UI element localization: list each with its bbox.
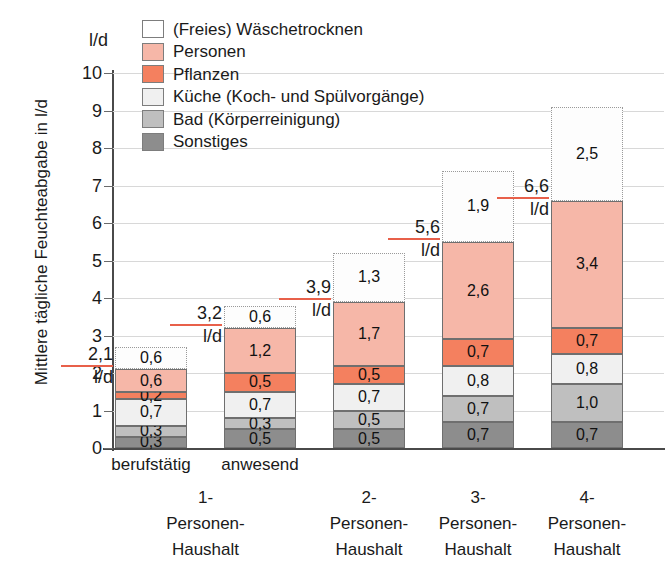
bar-segment[interactable]: 0,8	[442, 366, 514, 396]
bar-segment[interactable]: 0,7	[551, 422, 623, 448]
y-axis-tick-mark	[104, 261, 113, 262]
bar-segment[interactable]: 0,5	[333, 366, 405, 385]
y-axis-tick-label: 4	[56, 289, 102, 307]
x-axis-group-label-line: Personen-	[131, 511, 281, 537]
bar-segment[interactable]: 2,6	[442, 242, 514, 340]
bar-segment[interactable]: 0,7	[224, 392, 296, 418]
bar-total-unit: l/d	[380, 241, 440, 260]
bar-total-label: 3,2l/d	[162, 304, 222, 346]
y-axis-tick-label: 1	[56, 402, 102, 420]
y-axis-tick-mark	[104, 148, 113, 149]
bar-segment[interactable]: 1,3	[333, 253, 405, 302]
bar-group[interactable]: 0,50,30,70,51,20,6	[224, 0, 296, 448]
x-axis-group-label-line: Personen-	[512, 511, 662, 537]
bar-segment[interactable]: 0,7	[442, 339, 514, 365]
y-axis-tick-mark	[104, 223, 113, 224]
x-axis-sub-label: anwesend	[185, 455, 335, 475]
bar-total-value: 5,6	[380, 218, 440, 237]
y-axis-tick-mark	[104, 298, 113, 299]
bar-segment[interactable]: 0,5	[333, 429, 405, 448]
x-axis-group-label-line: 4-	[512, 485, 662, 511]
bar-total-label: 6,6l/d	[489, 177, 549, 219]
y-axis-tick-label: 8	[56, 139, 102, 157]
y-axis-tick-mark	[104, 448, 113, 449]
bar-group[interactable]: 0,71,00,80,73,42,5	[551, 0, 623, 448]
x-axis-group-label: 4-Personen-Haushalt	[512, 485, 662, 563]
bar-total-unit: l/d	[489, 200, 549, 219]
y-axis-tick-label: 3	[56, 327, 102, 345]
chart-root: Mittlere tägliche Feuchteabgabe in l/d l…	[0, 0, 668, 575]
x-axis-line	[103, 448, 665, 450]
y-axis-tick-mark	[104, 111, 113, 112]
bar-total-value: 3,9	[271, 278, 331, 297]
bar-total-unit: l/d	[162, 327, 222, 346]
bar-total-unit: l/d	[271, 301, 331, 320]
y-axis-tick-label: 9	[56, 102, 102, 120]
bar-total-value: 6,6	[489, 177, 549, 196]
bar-total-label: 3,9l/d	[271, 278, 331, 320]
bar-total-value: 3,2	[162, 304, 222, 323]
bar-segment[interactable]: 1,2	[224, 328, 296, 373]
x-axis-group-label: 1-Personen-Haushalt	[131, 485, 281, 563]
bar-total-label: 5,6l/d	[380, 218, 440, 260]
bar-segment[interactable]: 3,4	[551, 201, 623, 329]
bar-group[interactable]: 0,30,30,70,20,60,6	[115, 0, 187, 448]
y-axis-tick-label: 6	[56, 214, 102, 232]
bar-segment[interactable]: 0,7	[442, 422, 514, 448]
bar-segment[interactable]: 0,3	[224, 418, 296, 429]
y-axis-tick-mark	[104, 411, 113, 412]
bar-segment[interactable]: 2,5	[551, 107, 623, 201]
bar-total-unit: l/d	[53, 368, 113, 387]
bar-segment[interactable]: 0,7	[551, 328, 623, 354]
y-axis-tick-label: 7	[56, 177, 102, 195]
x-axis-group-label-line: 1-	[131, 485, 281, 511]
bar-total-value: 2,1	[53, 345, 113, 364]
bar-segment[interactable]: 0,8	[551, 354, 623, 384]
y-axis-tick-label: 10	[56, 64, 102, 82]
bar-segment[interactable]: 0,2	[115, 392, 187, 400]
y-axis-unit-label: l/d	[62, 30, 108, 51]
bar-segment[interactable]: 1,7	[333, 302, 405, 366]
x-axis-group-label-line: Haushalt	[131, 537, 281, 563]
bar-segment[interactable]: 0,5	[224, 373, 296, 392]
bar-segment[interactable]: 1,0	[551, 384, 623, 422]
y-axis-tick-label: 5	[56, 252, 102, 270]
x-axis-group-label-line: Haushalt	[512, 537, 662, 563]
bar-total-label: 2,1l/d	[53, 345, 113, 387]
y-axis-tick-mark	[104, 186, 113, 187]
bar-segment[interactable]: 0,7	[333, 384, 405, 410]
y-axis-tick-mark	[104, 73, 113, 74]
y-axis-tick-mark	[104, 336, 113, 337]
bar-segment[interactable]: 0,3	[115, 426, 187, 437]
bar-segment[interactable]: 0,7	[442, 396, 514, 422]
bar-segment[interactable]: 0,6	[115, 347, 187, 370]
y-axis-title: Mittlere tägliche Feuchteabgabe in l/d	[32, 32, 52, 452]
bar-group[interactable]: 0,70,70,80,72,61,9	[442, 0, 514, 448]
bar-segment[interactable]: 0,6	[115, 369, 187, 392]
bar-segment[interactable]: 0,5	[333, 411, 405, 430]
